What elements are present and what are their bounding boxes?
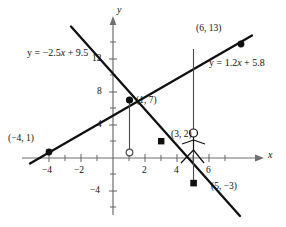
- x-tick-label-2: 2: [142, 166, 147, 176]
- y-tick-label-4: 4: [97, 120, 102, 130]
- x-tick-label-4: 4: [174, 166, 179, 176]
- x-tick-label-neg4: −4: [42, 166, 52, 176]
- point-label-neg4-1: (−4, 1): [8, 134, 34, 144]
- equation-right-suffix: + 5.8: [242, 57, 265, 68]
- equation-left-prefix: y = −2.5: [27, 47, 61, 58]
- point-marker-1-7: [126, 96, 133, 103]
- equation-label-ascending-line: y = 1.2x + 5.8: [209, 58, 265, 68]
- open-circle-marker-1-1: [126, 149, 133, 156]
- y-axis-label: y: [117, 5, 121, 15]
- point-marker-neg4-1: [46, 149, 53, 156]
- stick-figure-leg-right: [194, 150, 205, 163]
- y-axis-arrowhead: [110, 16, 117, 25]
- y-tick-label-neg4: −4: [90, 186, 100, 196]
- stick-figure-arm-right: [194, 140, 206, 144]
- equation-right-prefix: y = 1.2: [209, 57, 237, 68]
- point-marker-6-13: [238, 41, 245, 48]
- x-axis-label: x: [268, 150, 272, 160]
- stick-figure-arm-left: [182, 140, 194, 144]
- equation-left-suffix: + 9.5: [65, 47, 88, 58]
- point-label-1-7: (1, 7): [136, 96, 157, 106]
- plot-canvas: [0, 0, 286, 227]
- point-marker-5-neg3: [190, 180, 197, 187]
- linear-equations-graph-figure: y x −4 −2 2 4 6 4 8 12 −4 y = −2.5x + 9.…: [0, 0, 286, 227]
- y-tick-label-8: 8: [97, 87, 102, 97]
- point-marker-3-2: [158, 138, 164, 144]
- x-axis-arrowhead: [255, 155, 264, 162]
- point-label-3-2: (3, 2): [171, 130, 192, 140]
- equation-label-descending-line: y = −2.5x + 9.5: [27, 48, 88, 58]
- point-label-6-13: (6, 13): [196, 24, 221, 34]
- y-tick-label-12: 12: [92, 54, 102, 64]
- x-tick-label-neg2: −2: [74, 166, 84, 176]
- point-label-5-neg3: (5, −3): [211, 182, 237, 192]
- x-tick-label-6: 6: [206, 166, 211, 176]
